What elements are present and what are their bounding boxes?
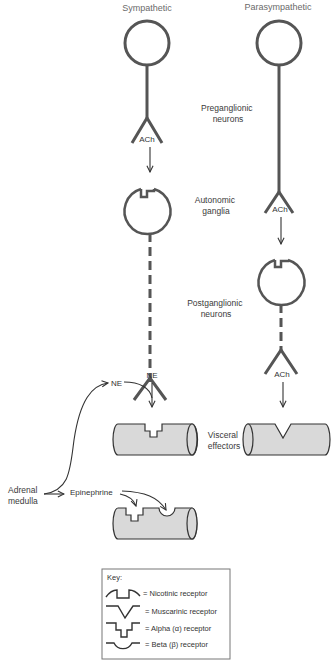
epinephrine-label: Epinephrine	[70, 488, 113, 497]
key-title: Key:	[107, 573, 122, 582]
adrenal-target-end	[187, 508, 197, 539]
key-muscarinic-label: = Muscarinic receptor	[145, 607, 217, 616]
para-effector-end	[243, 424, 253, 455]
key-nicotinic-label: = Nicotinic receptor	[143, 589, 208, 598]
parasympathetic-cell-body	[257, 21, 301, 65]
symp-effector-end	[187, 424, 197, 455]
epinephrine-to-beta-arrow	[122, 491, 166, 510]
key-alpha-label: = Alpha (α) receptor	[145, 624, 212, 633]
para-post-nt-label: ACh	[274, 370, 290, 379]
label-preganglionic: Preganglionic neurons	[201, 103, 255, 124]
symp-pre-nt-label: ACh	[139, 135, 155, 144]
label-autonomic-ganglia: Autonomic ganglia	[195, 195, 238, 216]
header-sympathetic: Sympathetic	[122, 3, 172, 13]
sympathetic-preganglionic-neuron	[125, 21, 169, 143]
adrenal-target-effector-cell	[113, 508, 197, 539]
key-beta-label: = Beta (β) receptor	[145, 640, 208, 649]
label-postganglionic: Postganglionic neurons	[187, 298, 245, 319]
para-effector-body	[248, 424, 330, 455]
parasympathetic-preganglionic-neuron	[257, 21, 301, 213]
symp-post-nt-label: NE	[146, 371, 157, 380]
symp-effector-body	[113, 424, 198, 455]
label-visceral-effectors: Visceral effectors	[208, 430, 240, 451]
adrenal-target-body	[113, 508, 197, 539]
parasympathetic-effector-cell	[243, 424, 330, 455]
adrenal-to-ne-arrow	[44, 383, 108, 494]
para-pre-nt-label: ACh	[272, 205, 288, 214]
epinephrine-to-alpha-arrow	[120, 494, 136, 506]
key-legend: Key: = Nicotinic receptor = Muscarinic r…	[102, 569, 230, 659]
adrenal-ne-label: NE	[111, 379, 122, 388]
sympathetic-ganglion	[125, 189, 171, 234]
parasympathetic-ganglion	[259, 260, 305, 305]
label-adrenal-medulla: Adrenal medulla	[8, 485, 40, 506]
sympathetic-cell-body	[125, 21, 169, 65]
sympathetic-effector-cell	[113, 424, 198, 455]
nicotinic-receptor-site	[141, 189, 154, 197]
header-parasympathetic: Parasympathetic	[244, 2, 312, 12]
autonomic-nervous-system-diagram: Sympathetic Parasympathetic ACh NE ACh A…	[0, 0, 335, 665]
para-nicotinic-receptor-site	[275, 260, 288, 267]
